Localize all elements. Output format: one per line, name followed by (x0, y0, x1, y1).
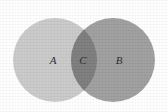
venn-diagram-canvas: A C B (0, 0, 168, 112)
label-set-b: B (116, 54, 123, 66)
label-intersection-c: C (79, 54, 87, 66)
venn-diagram-figure: A C B (0, 0, 168, 112)
label-set-a: A (49, 54, 57, 66)
